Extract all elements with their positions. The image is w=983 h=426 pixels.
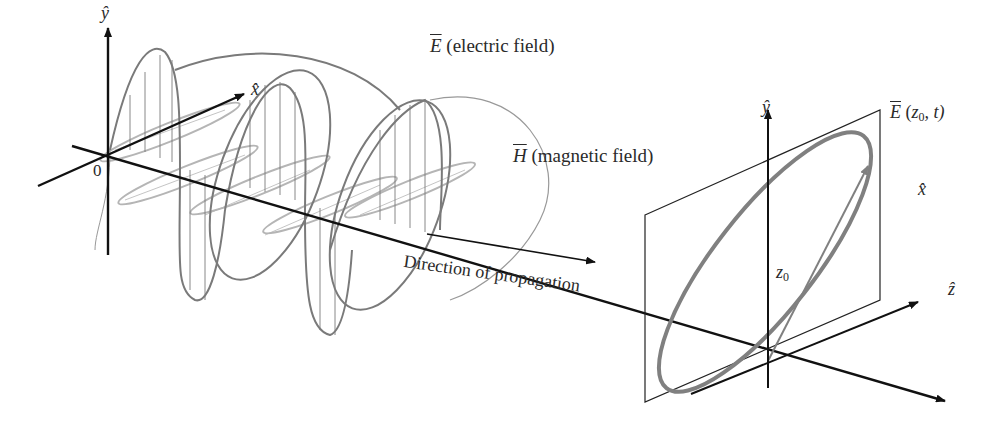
left-axes <box>38 28 945 401</box>
e-args-rest: , t) <box>925 102 945 122</box>
magnetic-field-text: (magnetic field) <box>527 145 654 166</box>
electric-field-wave <box>95 49 475 335</box>
e-symbol: E <box>890 102 901 122</box>
z0-symbol: z <box>776 262 783 282</box>
left-x-axis-label: x̂ <box>251 80 259 98</box>
z0-label: z0 <box>776 263 789 283</box>
em-wave-diagram: ŷ x̂ 0 E (electric field) H (magnetic fi… <box>0 0 983 426</box>
magnetic-field-wave <box>97 96 478 241</box>
e-args-z: z <box>912 102 919 122</box>
e-args-open: ( <box>901 102 912 122</box>
z0-subscript: 0 <box>783 270 789 284</box>
origin-label: 0 <box>93 162 102 179</box>
z-axis-label: ẑ <box>948 280 955 298</box>
left-y-axis-label: ŷ <box>101 4 109 22</box>
magnetic-field-symbol: H <box>513 145 527 166</box>
e-z0-t-label: E (z0, t) <box>890 103 945 123</box>
diagram-canvas <box>0 0 983 426</box>
right-x-axis-label: x̂ <box>918 180 926 198</box>
right-y-axis-label: ŷ <box>762 98 770 116</box>
electric-field-text: (electric field) <box>442 35 555 56</box>
electric-field-label: E (electric field) <box>430 36 554 55</box>
electric-field-symbol: E <box>430 35 442 56</box>
polarization-plane <box>627 105 918 419</box>
magnetic-field-label: H (magnetic field) <box>513 146 653 165</box>
